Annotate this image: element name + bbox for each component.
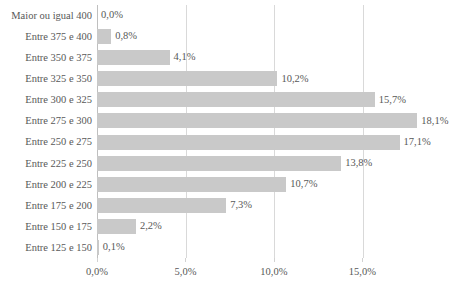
bar-container: 10,7%	[97, 174, 456, 195]
bar-value-label: 0,0%	[101, 10, 123, 21]
bar-rows: Maior ou igual 4000,0%Entre 375 e 4000,8…	[0, 5, 456, 258]
category-label: Entre 375 e 400	[0, 26, 92, 47]
bar	[97, 92, 375, 107]
bar-value-label: 0,8%	[115, 31, 137, 42]
bar	[97, 156, 341, 171]
bar	[97, 219, 136, 234]
x-axis-tick	[362, 258, 363, 262]
bar-row: Entre 250 e 27517,1%	[0, 131, 456, 152]
bar-row: Entre 150 e 1752,2%	[0, 216, 456, 237]
category-label: Entre 325 e 350	[0, 68, 92, 89]
category-label: Entre 150 e 175	[0, 216, 92, 237]
bar	[97, 240, 99, 255]
x-axis-tick	[97, 258, 98, 262]
bar-container: 2,2%	[97, 216, 456, 237]
bar	[97, 71, 277, 86]
x-axis-tick-label: 10,0%	[244, 266, 304, 277]
x-axis-tick	[274, 258, 275, 262]
bar-container: 0,0%	[97, 5, 456, 26]
bar-row: Maior ou igual 4000,0%	[0, 5, 456, 26]
category-label: Entre 175 e 200	[0, 195, 92, 216]
bar-row: Entre 300 e 32515,7%	[0, 89, 456, 110]
bar-value-label: 7,3%	[230, 200, 252, 211]
bar-row: Entre 325 e 35010,2%	[0, 68, 456, 89]
bar-value-label: 0,1%	[103, 242, 125, 253]
bar-value-label: 17,1%	[404, 137, 431, 148]
bar-row: Entre 375 e 4000,8%	[0, 26, 456, 47]
bar-row: Entre 275 e 30018,1%	[0, 110, 456, 131]
bar-row: Entre 125 e 1500,1%	[0, 237, 456, 258]
category-label: Entre 250 e 275	[0, 131, 92, 152]
bar-row: Entre 175 e 2007,3%	[0, 195, 456, 216]
bar-container: 0,8%	[97, 26, 456, 47]
bar-value-label: 4,1%	[174, 52, 196, 63]
bar-value-label: 13,8%	[345, 158, 372, 169]
bar-container: 13,8%	[97, 153, 456, 174]
bar-container: 4,1%	[97, 47, 456, 68]
bar-value-label: 15,7%	[379, 95, 406, 106]
category-label: Entre 200 e 225	[0, 174, 92, 195]
bar	[97, 198, 226, 213]
bar-container: 17,1%	[97, 131, 456, 152]
x-axis-tick-label: 15,0%	[332, 266, 392, 277]
bar-container: 7,3%	[97, 195, 456, 216]
bar	[97, 50, 170, 65]
bar-container: 18,1%	[97, 110, 456, 131]
bar-row: Entre 225 e 25013,8%	[0, 153, 456, 174]
bar-row: Entre 200 e 22510,7%	[0, 174, 456, 195]
x-axis-tick-label: 0,0%	[67, 266, 127, 277]
bar-container: 15,7%	[97, 89, 456, 110]
category-label: Entre 275 e 300	[0, 110, 92, 131]
category-label: Entre 300 e 325	[0, 89, 92, 110]
bar-row: Entre 350 e 3754,1%	[0, 47, 456, 68]
category-label: Maior ou igual 400	[0, 5, 92, 26]
bar	[97, 177, 286, 192]
bar-container: 0,1%	[97, 237, 456, 258]
bar	[97, 135, 400, 150]
bar-value-label: 10,7%	[290, 179, 317, 190]
bar-value-label: 18,1%	[421, 116, 448, 127]
category-label: Entre 225 e 250	[0, 153, 92, 174]
bar-value-label: 10,2%	[281, 74, 308, 85]
bar-chart: Maior ou igual 4000,0%Entre 375 e 4000,8…	[0, 0, 456, 296]
bar	[97, 29, 111, 44]
x-axis-tick-label: 5,0%	[155, 266, 215, 277]
category-label: Entre 350 e 375	[0, 47, 92, 68]
bar-value-label: 2,2%	[140, 221, 162, 232]
x-axis-tick	[185, 258, 186, 262]
bar-container: 10,2%	[97, 68, 456, 89]
category-label: Entre 125 e 150	[0, 237, 92, 258]
bar	[97, 113, 417, 128]
